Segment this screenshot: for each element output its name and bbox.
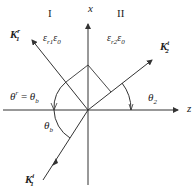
transmitted-ray xyxy=(88,60,152,110)
reflected-ray xyxy=(32,40,88,110)
construction-line-2 xyxy=(88,65,111,92)
construction-line-1 xyxy=(66,65,88,82)
medium-2-permittivity: εr2ε0 xyxy=(107,33,125,46)
incidence-angle-label: θb xyxy=(44,120,53,134)
brewster-angle-diagram: I II x z εr1ε0 εr2ε0 Kr1 Kt2 Ki1 θr = θb… xyxy=(0,0,196,191)
reflected-wavevector-label: Kr1 xyxy=(10,28,20,43)
angle-arc-incidence xyxy=(54,110,70,138)
x-axis-label: x xyxy=(88,3,93,14)
region-2-label: II xyxy=(117,8,124,19)
medium-1-permittivity: εr1ε0 xyxy=(43,33,61,46)
transmitted-wavevector-label: Kt2 xyxy=(160,40,169,55)
reflection-angle-label: θr = θb xyxy=(10,90,39,105)
region-1-label: I xyxy=(48,8,52,19)
incident-wavevector-label: Ki1 xyxy=(25,173,34,188)
z-axis-label: z xyxy=(187,103,191,114)
transmission-angle-label: θ2 xyxy=(148,92,157,106)
